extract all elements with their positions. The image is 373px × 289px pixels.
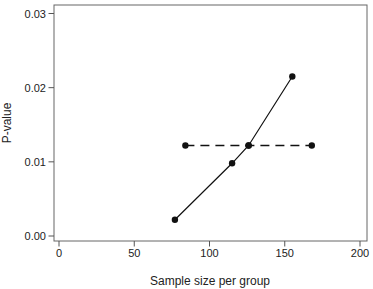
x-tick-label: 100 [200,247,218,259]
solid-series-line [175,77,292,220]
p-value-vs-sample-size-chart: 0501001502000.000.010.020.03 Sample size… [0,0,373,289]
data-series [172,73,315,223]
plot-box [54,5,367,241]
dashed-series-point-marker [309,142,315,148]
x-tick-label: 200 [351,247,369,259]
solid-series-point-marker [172,217,178,223]
solid-series-point-marker [229,160,235,166]
solid-series-point-marker [289,73,295,79]
x-tick-label: 150 [276,247,294,259]
axis-ticks: 0501001502000.000.010.020.03 [25,8,370,260]
y-tick-label: 0.01 [25,156,46,168]
x-axis-title: Sample size per group [150,274,270,288]
x-tick-label: 50 [128,247,140,259]
dashed-series-point-marker [245,142,251,148]
chart-svg: 0501001502000.000.010.020.03 Sample size… [0,0,373,289]
y-axis-title: P-value [0,102,14,143]
y-tick-label: 0.02 [25,82,46,94]
dashed-series-point-marker [182,142,188,148]
y-tick-label: 0.03 [25,8,46,20]
x-tick-label: 0 [56,247,62,259]
y-tick-label: 0.00 [25,230,46,242]
